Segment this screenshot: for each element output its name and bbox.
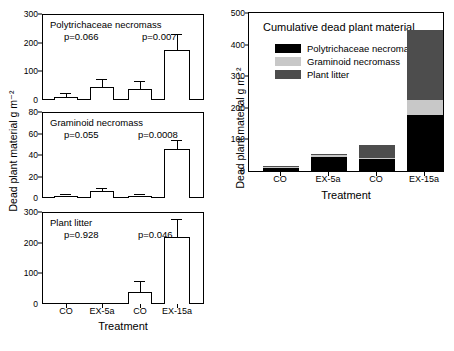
left-y-axis-label: Dead plant material g m⁻² [7, 71, 19, 231]
panel1-errorcap-co-15a [134, 81, 145, 82]
panel4-tickmark-100 [245, 139, 249, 140]
panel1-title: Polytrichaceae necromass [50, 19, 161, 30]
panel2-bar-ex5a [90, 191, 114, 198]
panel2-ytick-80: 80 [29, 107, 38, 117]
panel1-errorbar-ex15a [177, 35, 178, 50]
panel3-bar-co-15a [128, 292, 152, 304]
stackseg-polytrichaceae-ex15a [407, 115, 443, 171]
panel3-ytick-200: 200 [24, 238, 38, 248]
stacked-bar-co-5a [263, 166, 299, 171]
panel1-bar-co-15a [128, 89, 152, 100]
stacked-bar-ex15a [407, 30, 443, 171]
panel4-ytick-100: 100 [231, 134, 245, 144]
panel2-ytick-40: 40 [29, 150, 38, 160]
panel2-errorbar-ex5a [102, 189, 103, 191]
panel4-ytick-0: 0 [240, 166, 245, 176]
panel4-tickmark-300 [245, 76, 249, 77]
panel3-errorcap-ex15a [171, 219, 182, 220]
stacked-bar-ex5a [311, 154, 347, 171]
panel1-tickmark-100 [38, 71, 42, 72]
left-xlabel-ex15a: EX-15a [162, 306, 192, 316]
panel4-title: Cumulative dead plant material [263, 21, 415, 33]
right-x-axis-title: Treatment [248, 189, 444, 201]
panel4-tickmark-400 [245, 44, 249, 45]
legend-label-plant-litter: Plant litter [307, 69, 349, 80]
panel1-errorbar-ex5a [102, 80, 103, 87]
stackseg-plant-litter-co-15a [359, 145, 395, 158]
panel1-ytick-300: 300 [24, 9, 38, 19]
panel3-errorcap-co-15a [134, 281, 145, 282]
panel2-pvalue-right: p=0.0008 [138, 129, 178, 140]
panel4-ytick-500: 500 [231, 8, 245, 18]
right-xlabel-ex15a: EX-15a [409, 174, 439, 184]
panel3-ytick-100: 100 [24, 268, 38, 278]
panel-plant-litter: 0 100 200 300 Plant litter p=0.928 p=0.0… [42, 212, 204, 304]
panel-polytrichaceae-necromass: 0 100 200 300 Polytrichaceae necromass p… [42, 14, 204, 100]
figure-dead-plant-material: Dead plant material g m⁻² 0 100 200 300 … [0, 0, 454, 351]
panel3-tickmark-200 [38, 242, 42, 243]
panel1-pvalue-left: p=0.066 [64, 31, 99, 42]
right-xlabel-ex5a: EX-5a [315, 174, 340, 184]
panel4-ytick-300: 300 [231, 71, 245, 81]
panel1-errorbar-co-5a [66, 94, 67, 97]
panel3-ytick-300: 300 [24, 207, 38, 217]
panel3-errorbar-ex15a [177, 220, 178, 237]
panel2-errorcap-ex5a [96, 188, 107, 189]
panel1-bar-co-5a [54, 97, 78, 100]
panel3-tickmark-300 [38, 212, 42, 213]
panel3-tickmark-100 [38, 273, 42, 274]
left-x-axis-title: Treatment [42, 320, 204, 332]
stackseg-polytrichaceae-ex5a [311, 157, 347, 171]
right-panel-column: Dead plant material g m⁻² Cumulative dea… [212, 0, 454, 351]
stackseg-polytrichaceae-co-15a [359, 159, 395, 171]
panel2-errorbar-ex15a [177, 141, 178, 149]
panel1-ytick-100: 100 [24, 66, 38, 76]
right-xlabel-co-15a: CO [369, 174, 383, 184]
stacked-bar-co-15a [359, 145, 395, 171]
panel3-title: Plant litter [50, 217, 92, 228]
legend-swatch-graminoid [275, 57, 301, 66]
right-xlabel-co-5a: CO [273, 174, 287, 184]
panel1-bar-ex5a [90, 87, 114, 100]
legend-swatch-polytrichaceae [275, 44, 301, 53]
left-xlabel-ex5a: EX-5a [89, 306, 114, 316]
panel2-tickmark-40 [38, 155, 42, 156]
panel1-bar-ex15a [164, 50, 190, 100]
panel2-ytick-20: 20 [29, 172, 38, 182]
panel2-tickmark-60 [38, 133, 42, 134]
panel3-pvalue-left: p=0.928 [64, 229, 99, 240]
panel2-bar-co-15a [128, 196, 152, 198]
panel2-tickmark-80 [38, 112, 42, 113]
panel-cumulative-plot-area: Cumulative dead plant material Polytrich… [248, 12, 444, 172]
panel2-bar-co-5a [54, 196, 78, 198]
panel2-bar-ex15a [164, 149, 190, 198]
panel1-errorcap-ex15a [171, 34, 182, 35]
panel1-tickmark-300 [38, 14, 42, 15]
left-xlabel-co-15a: CO [133, 306, 147, 316]
left-xlabel-co-5a: CO [59, 306, 73, 316]
panel1-pvalue-right: p=0.007 [142, 31, 177, 42]
legend-label-graminoid: Graminoid necromass [307, 56, 400, 67]
panel1-errorcap-ex5a [96, 79, 107, 80]
panel1-ytick-200: 200 [24, 38, 38, 48]
stackseg-graminoid-ex15a [407, 100, 443, 115]
panel2-errorcap-co-5a [60, 194, 71, 195]
panel4-ytick-200: 200 [231, 103, 245, 113]
panel1-tickmark-200 [38, 42, 42, 43]
panel2-errorcap-co-15a [134, 194, 145, 195]
panel4-tickmark-200 [245, 107, 249, 108]
panel2-errorcap-ex15a [171, 140, 182, 141]
panel2-ytick-60: 60 [29, 129, 38, 139]
panel-graminoid-necromass: 0 20 40 60 80 Graminoid necromass p=0.05… [42, 112, 204, 198]
panel1-errorbar-co-15a [140, 82, 141, 89]
panel4-tickmark-500 [245, 13, 249, 14]
stackseg-polytrichaceae-co-5a [263, 168, 299, 171]
panel1-ytick-0: 0 [33, 95, 38, 105]
panel3-ytick-0: 0 [33, 299, 38, 309]
panel3-errorbar-co-15a [140, 282, 141, 292]
left-panel-column: Dead plant material g m⁻² 0 100 200 300 … [0, 0, 212, 351]
panel2-title: Graminoid necromass [50, 117, 143, 128]
legend-label-polytrichaceae: Polytrichaceae necromass [307, 43, 418, 54]
panel2-ytick-0: 0 [33, 193, 38, 203]
stackseg-plant-litter-ex15a [407, 30, 443, 100]
